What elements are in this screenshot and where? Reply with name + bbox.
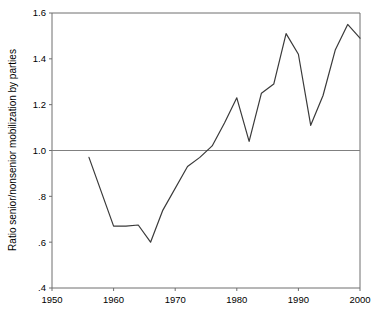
line-chart: .4.6.81.01.21.41.6 195019601970198019902… [0,0,378,313]
y-tick-label: 1.0 [33,145,46,156]
x-tick-label: 1970 [165,294,186,305]
chart-background [0,0,378,313]
y-tick-label: 1.4 [33,53,46,64]
y-tick-label: .4 [38,282,46,293]
chart-figure: .4.6.81.01.21.41.6 195019601970198019902… [0,0,378,313]
y-tick-label: .8 [38,191,46,202]
y-tick-label: 1.6 [33,7,46,18]
y-tick-label: .6 [38,237,46,248]
x-tick-label: 1960 [103,294,124,305]
x-tick-label: 2000 [349,294,370,305]
y-tick-label: 1.2 [33,99,46,110]
x-tick-label: 1990 [288,294,309,305]
x-tick-label: 1950 [41,294,62,305]
y-axis-title: Ratio senior/nonsenior mobilization by p… [7,49,18,251]
x-tick-label: 1980 [226,294,247,305]
